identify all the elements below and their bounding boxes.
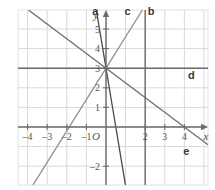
line-label-d: d <box>188 69 195 81</box>
x-tick-label: –2 <box>61 131 72 142</box>
x-tick-label: 3 <box>162 131 167 142</box>
y-tick-label: 4 <box>95 43 100 54</box>
x-tick-label: –3 <box>41 131 52 142</box>
coordinate-plane-figure: –4–3–2–123454321–2Oxyabcde <box>0 0 215 190</box>
line-label-c: c <box>124 5 130 17</box>
x-axis-label: x <box>203 130 209 142</box>
y-tick-label: 5 <box>95 24 100 35</box>
x-tick-label: –1 <box>80 131 91 142</box>
coordinate-plot-svg: –4–3–2–123454321–2Oxyabcde <box>0 0 215 190</box>
x-tick-label: –4 <box>22 131 33 142</box>
y-tick-label: 3 <box>95 63 100 74</box>
x-tick-label: 2 <box>143 131 148 142</box>
line-label-a: a <box>92 5 99 17</box>
line-label-e: e <box>183 145 189 157</box>
y-tick-label: –2 <box>89 161 100 172</box>
line-label-b: b <box>148 5 155 17</box>
x-tick-label: 4 <box>182 131 187 142</box>
y-tick-label: 2 <box>95 82 100 93</box>
y-tick-label: 1 <box>95 102 100 113</box>
origin-label: O <box>92 130 100 142</box>
